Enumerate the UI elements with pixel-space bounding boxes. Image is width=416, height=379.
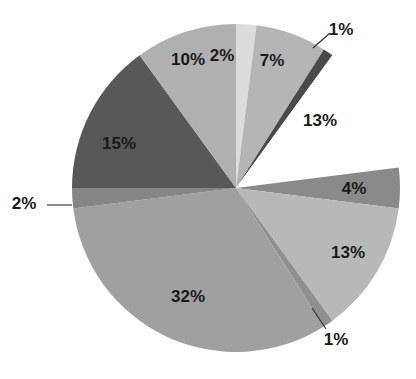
label-leader-line bbox=[313, 33, 330, 48]
pie-slice-label: 4% bbox=[342, 179, 367, 198]
pie-slice-label: 2% bbox=[12, 194, 37, 213]
pie-slice-label: 7% bbox=[260, 51, 285, 70]
pie-slice-label: 10% bbox=[171, 50, 205, 69]
pie-slice-label: 13% bbox=[331, 243, 365, 262]
pie-slice-label: 1% bbox=[324, 330, 349, 349]
pie-chart-svg: 2%7%1%13%4%13%1%32%2%15%10% bbox=[0, 0, 416, 379]
pie-slice-label: 1% bbox=[329, 20, 354, 39]
pie-slice-label: 2% bbox=[210, 46, 235, 65]
pie-slice-label: 32% bbox=[171, 287, 205, 306]
pie-slice-label: 13% bbox=[303, 111, 337, 130]
pie-slice-label: 15% bbox=[102, 134, 136, 153]
pie-chart-figure: 2%7%1%13%4%13%1%32%2%15%10% bbox=[0, 0, 416, 379]
